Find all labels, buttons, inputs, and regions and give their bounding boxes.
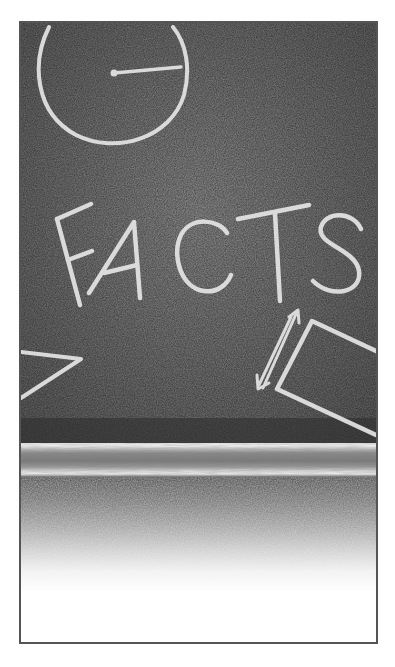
facts-lettering — [57, 204, 361, 305]
chalk-drawings — [21, 23, 376, 443]
chalk-ledge — [21, 443, 376, 477]
ledge-texture — [21, 443, 376, 477]
illustration-frame — [19, 21, 378, 644]
chalkboard — [21, 23, 376, 443]
shadow-fade — [21, 477, 376, 642]
triangle-icon — [21, 352, 81, 398]
double-arrow-icon — [257, 310, 299, 389]
rectangle-icon — [277, 321, 376, 435]
clock-icon — [39, 27, 187, 143]
fade-texture — [21, 477, 376, 642]
